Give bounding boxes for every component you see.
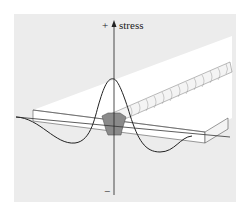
axis-label: stress (119, 19, 143, 31)
positive-sign: + (102, 19, 108, 31)
stress-distribution-diagram: + stress − (0, 0, 243, 213)
negative-sign: − (104, 185, 110, 197)
